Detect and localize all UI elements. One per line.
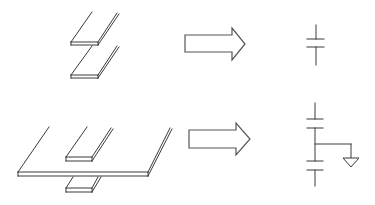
- diagram-canvas: Two parallel stacked conductor plates Sm…: [0, 0, 375, 205]
- ground-icon: [343, 158, 359, 167]
- series-capacitors-ground-symbol-icon: [0, 0, 375, 205]
